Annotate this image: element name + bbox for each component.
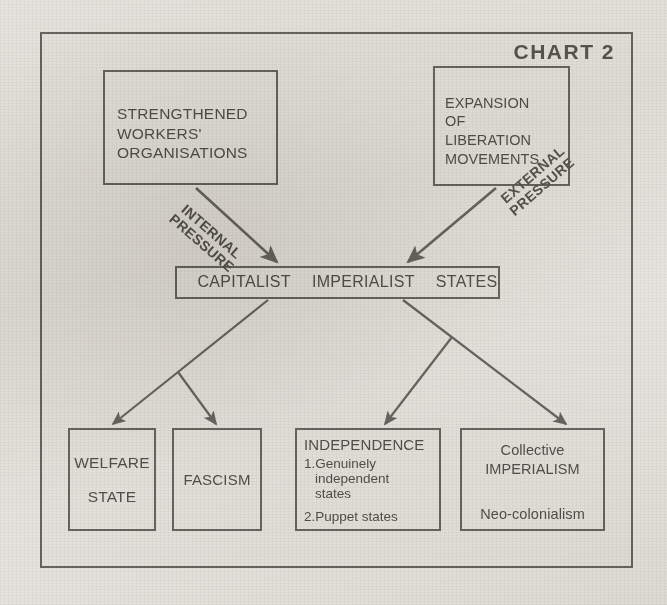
node-subline: Neo-colonialism xyxy=(480,505,585,524)
edge-right-trunk xyxy=(403,300,566,424)
node-list-item-1-line2: independent xyxy=(304,471,446,486)
node-word: STATES xyxy=(436,272,498,292)
node-line: OF xyxy=(445,112,578,131)
edge-external-pressure xyxy=(408,188,496,262)
node-welfare-state[interactable]: WELFARE STATE xyxy=(68,428,156,531)
node-line: WORKERS' xyxy=(117,124,288,144)
node-line: WELFARE xyxy=(74,453,149,473)
node-fascism[interactable]: FASCISM xyxy=(172,428,262,531)
node-header: INDEPENDENCE xyxy=(304,435,446,454)
node-line: EXPANSION xyxy=(445,94,578,113)
node-line: STRENGTHENED xyxy=(117,104,288,124)
node-independence[interactable]: INDEPENDENCE 1.Genuinely independent sta… xyxy=(295,428,441,531)
node-line: IMPERIALISM xyxy=(485,460,580,479)
chart-title: CHART 2 xyxy=(513,40,615,64)
node-list-item-2: 2.Puppet states xyxy=(304,508,446,525)
node-word: CAPITALIST xyxy=(198,272,291,292)
node-strengthened-workers-organisations[interactable]: STRENGTHENED WORKERS' ORGANISATIONS xyxy=(103,70,278,185)
edge-left-trunk xyxy=(113,300,268,424)
node-line: Collective xyxy=(501,441,565,460)
node-list-item-1: 1.Genuinely xyxy=(304,456,446,471)
chart-stage: CHART 2 STRENGTHENED WORKERS' ORGANISAT xyxy=(0,0,667,605)
node-collective-imperialism[interactable]: Collective IMPERIALISM Neo-colonialism xyxy=(460,428,605,531)
node-list-item-1-line3: states xyxy=(304,486,446,501)
node-line: FASCISM xyxy=(183,470,250,489)
edge-states-independence xyxy=(385,337,452,424)
node-line: STATE xyxy=(88,487,137,507)
node-line: ORGANISATIONS xyxy=(117,143,288,163)
edge-states-fascism xyxy=(178,372,216,424)
node-word: IMPERIALIST xyxy=(312,272,415,292)
